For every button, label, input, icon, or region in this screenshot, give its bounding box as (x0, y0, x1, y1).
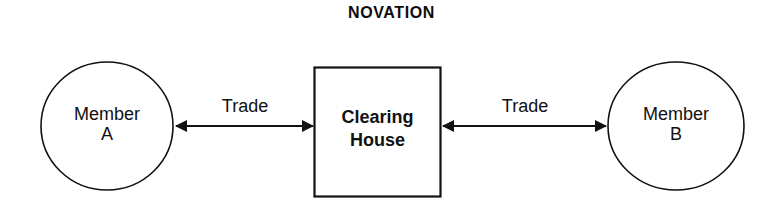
node-member-a-label-line2: A (41, 124, 173, 144)
node-member-a-label-line1: Member (41, 104, 173, 124)
diagram-title: NOVATION (0, 4, 783, 22)
node-clearing-house-label: Clearing House (314, 106, 441, 152)
node-member-a-label: Member A (41, 104, 173, 144)
edge-left-label: Trade (176, 96, 314, 117)
node-clearing-house-label-line1: Clearing (314, 106, 441, 129)
node-clearing-house-label-line2: House (314, 129, 441, 152)
node-member-b-label-line2: B (608, 124, 744, 144)
novation-diagram: NOVATION Member A Clearing House M (0, 0, 783, 212)
node-member-b-label-line1: Member (608, 104, 744, 124)
edge-right-label: Trade (442, 96, 608, 117)
node-member-b-label: Member B (608, 104, 744, 144)
